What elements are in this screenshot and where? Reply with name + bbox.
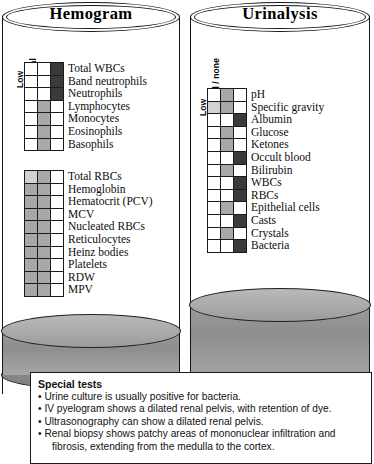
table-row — [25, 75, 64, 88]
result-cell — [25, 113, 38, 126]
result-cell — [208, 126, 221, 139]
result-cell — [25, 88, 38, 101]
result-cell — [51, 259, 64, 272]
result-cell — [25, 233, 38, 246]
table-row — [25, 196, 64, 209]
row-label: Lymphocytes — [68, 100, 147, 113]
table-row — [25, 88, 64, 101]
row-label: Band neutrophils — [68, 75, 147, 88]
result-cell — [51, 63, 64, 76]
result-cell — [51, 233, 64, 246]
result-cell — [221, 114, 234, 127]
result-cell — [51, 246, 64, 259]
table-row — [25, 63, 64, 76]
result-cell — [25, 138, 38, 151]
result-cell — [38, 138, 51, 151]
table-row — [25, 100, 64, 113]
fluid-surface — [189, 288, 371, 322]
result-cell — [221, 101, 234, 114]
result-cell — [221, 214, 234, 227]
table-row — [25, 271, 64, 284]
result-cell — [25, 246, 38, 259]
row-label: RDW — [68, 271, 153, 284]
result-cell — [221, 189, 234, 202]
result-cell — [38, 63, 51, 76]
result-cell — [234, 202, 247, 215]
result-cell — [25, 63, 38, 76]
result-cell — [234, 240, 247, 253]
result-cell — [208, 202, 221, 215]
result-cell — [25, 75, 38, 88]
result-cell — [38, 233, 51, 246]
row-label: pH — [251, 88, 324, 101]
result-cell — [221, 139, 234, 152]
result-cell — [38, 88, 51, 101]
result-cell — [38, 284, 51, 297]
result-cell — [221, 202, 234, 215]
result-cell — [38, 259, 51, 272]
result-cell — [25, 125, 38, 138]
result-cell — [25, 259, 38, 272]
row-label: Epithelial cells — [251, 201, 324, 214]
special-tests-list: • Urine culture is usually positive for … — [38, 391, 364, 453]
table-row — [25, 246, 64, 259]
table-row — [208, 126, 247, 139]
table-row — [208, 227, 247, 240]
hemogram-wbc-labels: Total WBCsBand neutrophilsNeutrophilsLym… — [68, 62, 147, 150]
row-label: Eosinophils — [68, 125, 147, 138]
result-cell — [51, 183, 64, 196]
result-cell — [38, 171, 51, 184]
result-cell — [234, 189, 247, 202]
result-cell — [38, 113, 51, 126]
result-cell — [221, 227, 234, 240]
table-row — [208, 151, 247, 164]
fluid-surface — [1, 314, 181, 348]
result-cell — [25, 183, 38, 196]
result-cell — [38, 208, 51, 221]
result-cell — [221, 164, 234, 177]
result-cell — [25, 171, 38, 184]
row-label: Total RBCs — [68, 170, 153, 183]
list-item: • Ultrasonography can show a dilated ren… — [38, 416, 364, 428]
result-cell — [234, 214, 247, 227]
row-label: Nucleated RBCs — [68, 220, 153, 233]
table-row — [208, 189, 247, 202]
row-label: Glucose — [251, 126, 324, 139]
table-row — [25, 233, 64, 246]
result-cell — [234, 139, 247, 152]
result-cell — [51, 171, 64, 184]
result-cell — [51, 221, 64, 234]
table-row — [208, 214, 247, 227]
row-label: Hematocrit (PCV) — [68, 195, 153, 208]
result-cell — [25, 100, 38, 113]
row-label: Heinz bodies — [68, 246, 153, 259]
row-label: WBCs — [251, 176, 324, 189]
row-label: Ketones — [251, 138, 324, 151]
result-cell — [25, 221, 38, 234]
row-label: Bilirubin — [251, 164, 324, 177]
result-cell — [208, 114, 221, 127]
diagram-canvas: Hemogram Low Normal High Total WBCsBand … — [0, 0, 374, 464]
result-cell — [208, 164, 221, 177]
result-cell — [51, 196, 64, 209]
row-label: Monocytes — [68, 112, 147, 125]
row-label: MCV — [68, 208, 153, 221]
hemogram-rbc-labels: Total RBCsHemoglobinHematocrit (PCV)MCVN… — [68, 170, 153, 296]
result-cell — [208, 89, 221, 102]
row-label: MPV — [68, 283, 153, 296]
row-label: Casts — [251, 214, 324, 227]
result-cell — [234, 114, 247, 127]
row-label: Occult blood — [251, 151, 324, 164]
result-cell — [234, 164, 247, 177]
row-label: Hemoglobin — [68, 183, 153, 196]
row-label: Specific gravity — [251, 101, 324, 114]
result-cell — [38, 196, 51, 209]
table-row — [25, 221, 64, 234]
table-row — [208, 139, 247, 152]
list-item: • Renal biopsy shows patchy areas of mon… — [38, 428, 364, 453]
result-cell — [208, 189, 221, 202]
result-cell — [221, 126, 234, 139]
table-row — [208, 202, 247, 215]
result-cell — [38, 183, 51, 196]
row-label: RBCs — [251, 189, 324, 202]
